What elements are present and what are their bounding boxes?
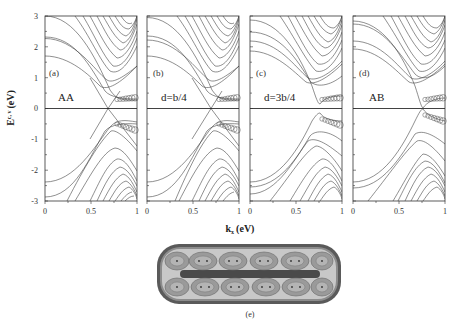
panel-c: (c) d=3b/4 [250,16,343,204]
svg-text:0: 0 [145,207,149,216]
panel-a: (a) AA [45,16,138,204]
svg-text:0: 0 [43,207,47,216]
panel-c-tag: (c) [256,68,266,78]
panel-a-name: AA [58,91,74,103]
band-structure-figure: Ec, v(eV) 3 2 1 0 -1 -2 -3 [0,0,467,326]
panel-b-tag: (b) [153,68,164,78]
panel-e-caption: (e) [246,310,255,319]
svg-text:3: 3 [34,12,38,21]
panel-c-name: d=3b/4 [264,91,296,103]
panel-b-name: d=b/4 [161,91,187,103]
svg-text:1: 1 [34,74,38,83]
charge-density-contour [157,244,341,304]
y-axis-title: Ec, v(eV) [5,90,17,126]
svg-text:0.5: 0.5 [86,207,96,216]
svg-text:2: 2 [34,43,38,52]
x-tick-labels: 0 0.5 1 0 0.5 1 0 0.5 1 0 0.5 1 [43,207,447,216]
svg-text:Ec, v(eV): Ec, v(eV) [5,90,17,126]
svg-text:0: 0 [351,207,355,216]
panel-d: (d) AB [353,16,446,204]
svg-text:1: 1 [340,207,344,216]
svg-text:-3: -3 [31,197,38,206]
svg-text:-2: -2 [31,166,38,175]
panel-a-tag: (a) [49,68,59,78]
svg-text:0.5: 0.5 [394,207,404,216]
svg-text:1: 1 [237,207,241,216]
svg-text:0.5: 0.5 [291,207,301,216]
panel-d-tag: (d) [359,68,370,78]
svg-text:-1: -1 [31,135,38,144]
svg-text:0: 0 [34,104,38,113]
panel-d-name: AB [369,91,384,103]
svg-text:1: 1 [443,207,447,216]
panel-b: (b) d=b/4 [147,16,240,204]
svg-text:0: 0 [248,207,252,216]
y-tick-labels: 3 2 1 0 -1 -2 -3 [31,12,38,206]
svg-text:1: 1 [135,207,139,216]
x-axis-title: kx(eV) [226,223,255,235]
svg-text:0.5: 0.5 [188,207,198,216]
